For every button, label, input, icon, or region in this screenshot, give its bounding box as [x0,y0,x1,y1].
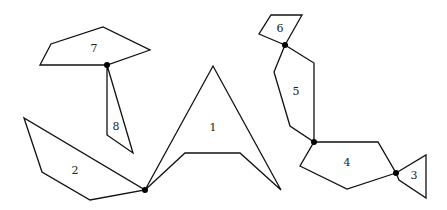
piece-label-2: 2 [72,165,79,176]
joint-4-5 [311,139,317,145]
piece-label-8: 8 [113,121,120,132]
piece-label-3: 3 [411,170,418,181]
joint-7-8 [104,62,110,68]
piece-8 [107,65,133,153]
piece-label-1: 1 [210,122,217,133]
piece-label-6: 6 [277,23,284,34]
diagram-canvas: 1 2 3 4 5 6 7 8 [0,0,447,210]
joint-5-6 [282,42,288,48]
joint-3-4 [393,170,399,176]
pieces-layer [0,0,447,210]
joint-1-2 [142,187,148,193]
piece-label-7: 7 [91,43,98,54]
piece-label-4: 4 [344,157,351,168]
piece-label-5: 5 [293,86,300,97]
